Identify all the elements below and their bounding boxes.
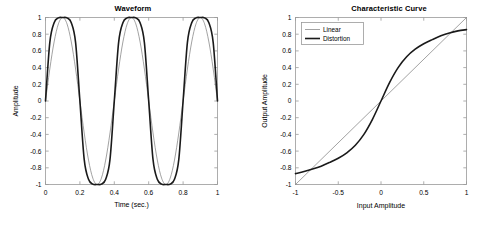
y-tick-label: -1 — [36, 181, 42, 188]
characteristic-y-axis-label: Output Amplitude — [261, 74, 269, 128]
x-tick-label: 1 — [465, 189, 469, 196]
characteristic-series-distortion — [296, 30, 467, 174]
waveform-y-axis-label: Amplitude — [12, 85, 20, 116]
x-tick-label: 1 — [216, 189, 220, 196]
y-tick-label: 0.6 — [32, 47, 41, 54]
y-tick-label: 0.6 — [282, 47, 291, 54]
characteristic-y-tick-labels: -1-0.8-0.6-0.4-0.200.20.40.60.81 — [280, 14, 292, 188]
y-tick-label: -0.6 — [30, 148, 42, 155]
x-tick-label: -1 — [293, 189, 299, 196]
legend-label-distortion: Distortion — [323, 35, 350, 42]
y-tick-label: -0.8 — [30, 164, 42, 171]
x-tick-label: 0.6 — [144, 189, 153, 196]
waveform-series-linear — [46, 18, 218, 185]
characteristic-x-tick-labels: -1-0.500.51 — [293, 189, 469, 196]
characteristic-x-axis-label: Input Amplitude — [357, 202, 405, 210]
legend[interactable]: Linear Distortion — [302, 23, 364, 45]
waveform-x-tick-labels: 00.20.40.60.81 — [44, 189, 220, 196]
x-tick-label: 0.5 — [419, 189, 428, 196]
y-tick-label: 1 — [38, 14, 42, 21]
panel-characteristic: Characteristic Curve -1-0.500.51 -1-0.8-… — [248, 0, 496, 226]
y-tick-label: -0.2 — [280, 114, 292, 121]
y-tick-label: -0.2 — [30, 114, 42, 121]
y-tick-label: 1 — [288, 14, 292, 21]
x-tick-label: 0.8 — [179, 189, 188, 196]
y-tick-label: -0.6 — [280, 148, 292, 155]
y-tick-label: 0.2 — [32, 81, 41, 88]
y-tick-label: 0 — [38, 97, 42, 104]
waveform-plot: 00.20.40.60.81 -1-0.8-0.6-0.4-0.200.20.4… — [0, 0, 248, 226]
y-tick-label: -0.4 — [280, 131, 292, 138]
y-tick-label: -0.8 — [280, 164, 292, 171]
y-tick-label: 0.4 — [282, 64, 291, 71]
x-tick-label: 0.4 — [110, 189, 119, 196]
figure-container: Waveform 00.20.40.60.81 -1-0.8-0.6-0.4-0… — [0, 0, 496, 226]
y-tick-label: 0.4 — [32, 64, 41, 71]
y-tick-label: 0.8 — [282, 31, 291, 38]
y-tick-label: -1 — [286, 181, 292, 188]
legend-label-linear: Linear — [323, 26, 342, 33]
x-tick-label: 0.2 — [75, 189, 84, 196]
x-tick-label: 0 — [379, 189, 383, 196]
waveform-y-tick-labels: -1-0.8-0.6-0.4-0.200.20.40.60.81 — [30, 14, 42, 188]
x-tick-label: 0 — [44, 189, 48, 196]
y-tick-label: -0.4 — [30, 131, 42, 138]
y-tick-label: 0.2 — [282, 81, 291, 88]
y-tick-label: 0.8 — [32, 31, 41, 38]
waveform-x-axis-label: Time (sec.) — [114, 201, 149, 209]
y-tick-label: 0 — [288, 97, 292, 104]
characteristic-plot: -1-0.500.51 -1-0.8-0.6-0.4-0.200.20.40.6… — [248, 0, 496, 226]
panel-waveform: Waveform 00.20.40.60.81 -1-0.8-0.6-0.4-0… — [0, 0, 248, 226]
x-tick-label: -0.5 — [333, 189, 345, 196]
